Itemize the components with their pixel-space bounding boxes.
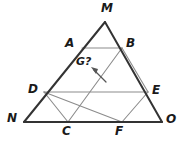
- segment-FE: [122, 92, 148, 122]
- vertex-label-B: B: [126, 37, 135, 49]
- geometry-figure: [0, 0, 187, 143]
- vertex-label-N: N: [7, 112, 17, 124]
- vertex-label-G: G?: [76, 56, 91, 67]
- diagram-canvas: M N O A B D E C F G?: [0, 0, 187, 143]
- vertex-label-E: E: [152, 84, 160, 96]
- segment-BE: [122, 48, 148, 92]
- vertex-label-C: C: [62, 125, 71, 137]
- vertex-label-F: F: [115, 125, 123, 137]
- vertex-label-M: M: [101, 2, 113, 14]
- vertex-label-A: A: [65, 37, 74, 49]
- interior-segments-group: [44, 48, 148, 122]
- vertex-label-D: D: [28, 83, 38, 95]
- vertex-label-O: O: [166, 113, 176, 125]
- outline-edges-group: [24, 22, 162, 122]
